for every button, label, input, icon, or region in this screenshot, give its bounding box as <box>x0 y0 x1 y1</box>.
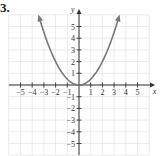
y-axis-label: y <box>70 5 75 14</box>
x-tick-label: 5 <box>136 88 140 97</box>
x-tick-label: 4 <box>124 88 128 97</box>
y-tick-label: −2 <box>66 104 75 113</box>
y-tick-label: 5 <box>71 23 75 32</box>
y-tick-label: 4 <box>71 34 75 43</box>
x-tick-label: −4 <box>28 88 37 97</box>
y-tick-label: 2 <box>71 58 75 67</box>
arrow-right-icon <box>115 14 120 22</box>
y-tick-label: −3 <box>66 116 75 125</box>
axes <box>9 9 155 155</box>
x-tick-label: 2 <box>100 88 104 97</box>
x-tick-label: 1 <box>89 88 93 97</box>
coordinate-plane: −5−4−3−2−112345−5−4−3−2−112345 x y <box>0 0 162 156</box>
x-axis-label: x <box>152 87 157 96</box>
y-tick-label: 1 <box>71 69 75 78</box>
x-tick-label: 3 <box>112 88 116 97</box>
x-tick-label: −5 <box>16 88 25 97</box>
y-tick-label: −1 <box>66 93 75 102</box>
arrow-left-icon <box>38 14 43 22</box>
y-tick-label: −4 <box>66 128 75 137</box>
x-tick-label: −3 <box>40 88 49 97</box>
y-tick-label: 3 <box>71 46 75 55</box>
x-tick-label: −2 <box>51 88 60 97</box>
y-tick-label: −5 <box>66 140 75 149</box>
